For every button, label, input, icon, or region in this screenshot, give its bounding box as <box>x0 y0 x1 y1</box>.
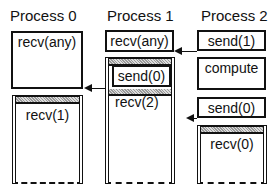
p2-recv-0-label: recv(0) <box>201 136 263 152</box>
shade-strip <box>16 97 79 104</box>
p0-recv-any-box: recv(any) <box>11 31 83 89</box>
p1-send-0-box: send(0) <box>112 65 171 87</box>
p2-send-0-box: send(0) <box>197 97 266 118</box>
p2-send-1-box: send(1) <box>197 30 266 51</box>
p0-recv-1-box: recv(1) <box>12 95 83 184</box>
arrow-send0-p1-line <box>90 88 105 89</box>
p1-recv-2-label: recv(2) <box>115 94 171 110</box>
process-1-header: Process 1 <box>107 7 174 24</box>
arrow-send1-line <box>180 51 197 52</box>
p2-compute-box: compute <box>197 57 266 90</box>
process-2-header: Process 2 <box>201 7 268 24</box>
arrow-send0-p2-line <box>192 118 197 119</box>
shade-strip <box>201 127 263 134</box>
p2-send-0-label: send(0) <box>199 100 264 116</box>
p0-recv-any-label: recv(any) <box>13 34 81 50</box>
p0-recv-1-label: recv(1) <box>16 107 79 123</box>
p2-send-1-label: send(1) <box>199 33 264 49</box>
arrow-left-icon <box>84 84 92 92</box>
arrow-left-icon <box>174 47 182 55</box>
p2-recv-0-box: recv(0) <box>197 125 267 184</box>
p1-recv-any-label: recv(any) <box>107 33 172 49</box>
p1-recv-any-box: recv(any) <box>105 30 174 52</box>
process-0-header: Process 0 <box>10 7 77 24</box>
p2-compute-label: compute <box>199 60 264 76</box>
p1-send-0-label: send(0) <box>114 68 169 84</box>
p1-recv-2-box: send(0) recv(2) <box>105 57 175 184</box>
